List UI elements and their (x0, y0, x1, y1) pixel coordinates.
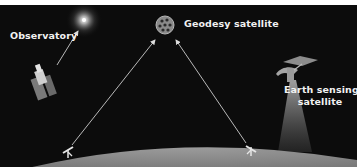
left-station-to-geodesy-arrow (72, 40, 155, 145)
satellite-icon (276, 56, 318, 82)
observatory-label: Observatory (10, 30, 77, 42)
geodesy-satellite-label: Geodesy satellite (184, 18, 279, 30)
laser-reflector-sphere-icon (156, 16, 174, 34)
earth-sensing-satellite-label: Earth sensing satellite (284, 84, 356, 108)
space-geodesy-diagram: Observatory Geodesy satellite Earth sens… (0, 0, 357, 167)
right-station-to-geodesy-arrow (176, 40, 246, 143)
ground-station-icon (63, 147, 73, 158)
earth-sensing-label-line1: Earth sensing (284, 84, 356, 96)
earth-sensing-label-line2: satellite (284, 96, 356, 108)
space-background: Observatory Geodesy satellite Earth sens… (0, 5, 357, 167)
radio-telescope-icon (26, 62, 56, 101)
